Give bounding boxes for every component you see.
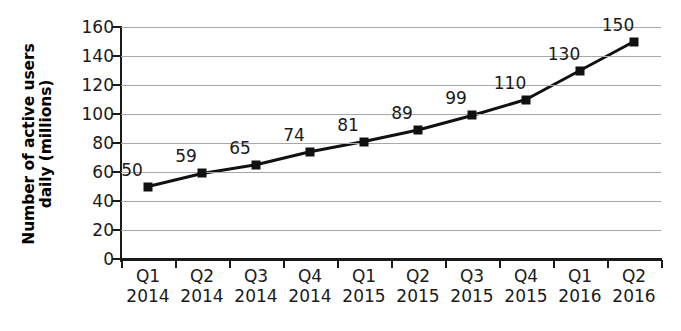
data-point-marker <box>306 147 315 156</box>
data-point-label: 99 <box>445 90 467 107</box>
x-axis-year-label: 2015 <box>342 286 385 306</box>
y-axis-tick-label: 20 <box>68 222 114 239</box>
x-axis-tick-mark <box>445 260 447 268</box>
y-axis-tick-mark <box>112 258 121 260</box>
data-point-marker <box>198 169 207 178</box>
x-axis-category: Q42014 <box>283 266 337 328</box>
x-axis-quarter-label: Q3 <box>460 266 484 286</box>
y-axis-tick-label: 40 <box>68 193 114 210</box>
x-axis-category: Q12014 <box>121 266 175 328</box>
y-axis-tick-label: 0 <box>68 251 114 268</box>
x-axis-category: Q22016 <box>607 266 661 328</box>
x-axis-quarter-label: Q4 <box>298 266 322 286</box>
y-axis-tick-labels: 020406080100120140160 <box>56 0 114 331</box>
x-axis-year-label: 2015 <box>504 286 547 306</box>
y-axis-tick-label: 140 <box>68 48 114 65</box>
x-axis-quarter-label: Q1 <box>352 266 376 286</box>
x-axis-tick-mark <box>337 260 339 268</box>
x-axis-category: Q32014 <box>229 266 283 328</box>
gridline <box>121 143 661 144</box>
y-axis-tick-label: 80 <box>68 135 114 152</box>
line-chart: Number of active users daily (millions) … <box>0 0 681 331</box>
x-axis-tick-mark <box>175 260 177 268</box>
gridline <box>121 201 661 202</box>
data-point-label: 81 <box>337 117 359 134</box>
data-point-label: 59 <box>175 148 197 165</box>
data-point-marker <box>630 37 639 46</box>
x-axis-year-label: 2015 <box>396 286 439 306</box>
data-point-label: 150 <box>602 17 634 34</box>
x-axis-quarter-label: Q2 <box>406 266 430 286</box>
x-axis-category: Q12016 <box>553 266 607 328</box>
data-point-label: 65 <box>229 140 251 157</box>
data-point-label: 50 <box>121 162 143 179</box>
x-axis-tick-mark <box>553 260 555 268</box>
x-axis-year-label: 2014 <box>180 286 223 306</box>
x-axis-quarter-label: Q2 <box>190 266 214 286</box>
data-point-label: 89 <box>391 105 413 122</box>
y-axis-tick-mark <box>112 171 121 173</box>
y-axis-tick-mark <box>112 55 121 57</box>
data-point-label: 130 <box>548 46 580 63</box>
x-axis-category-labels: Q12014Q22014Q32014Q42014Q12015Q22015Q320… <box>121 266 661 328</box>
data-point-marker <box>252 160 261 169</box>
x-axis-year-label: 2015 <box>450 286 493 306</box>
y-axis-tick-mark <box>112 113 121 115</box>
x-axis-tick-mark <box>229 260 231 268</box>
data-point-label: 110 <box>494 75 526 92</box>
x-axis-year-label: 2016 <box>612 286 655 306</box>
y-axis-tick-mark <box>112 84 121 86</box>
x-axis-category: Q22014 <box>175 266 229 328</box>
x-axis-quarter-label: Q3 <box>244 266 268 286</box>
y-axis-title-line-2: daily (millions) <box>38 80 55 209</box>
data-point-marker <box>468 111 477 120</box>
x-axis-quarter-label: Q1 <box>136 266 160 286</box>
x-axis-category: Q42015 <box>499 266 553 328</box>
data-point-label: 74 <box>283 127 305 144</box>
x-axis-tick-mark <box>283 260 285 268</box>
x-axis-year-label: 2014 <box>288 286 331 306</box>
x-axis-year-label: 2014 <box>126 286 169 306</box>
x-axis-year-label: 2016 <box>558 286 601 306</box>
x-axis-tick-mark <box>391 260 393 268</box>
x-axis-category: Q22015 <box>391 266 445 328</box>
y-axis-title: Number of active users daily (millions) <box>15 14 61 274</box>
y-axis-tick-mark <box>112 229 121 231</box>
x-axis-year-label: 2014 <box>234 286 277 306</box>
x-axis-tick-mark <box>121 260 123 268</box>
x-axis-quarter-label: Q4 <box>514 266 538 286</box>
x-axis-tick-mark <box>661 260 663 268</box>
plot-area: 50596574818999110130150 <box>121 27 661 259</box>
y-axis-tick-label: 160 <box>68 19 114 36</box>
y-axis-tick-mark <box>112 142 121 144</box>
x-axis-tick-mark <box>499 260 501 268</box>
gridline <box>121 27 661 28</box>
x-axis-quarter-label: Q2 <box>622 266 646 286</box>
data-point-marker <box>522 95 531 104</box>
x-axis-category: Q32015 <box>445 266 499 328</box>
gridline <box>121 230 661 231</box>
y-axis-tick-label: 100 <box>68 106 114 123</box>
data-point-marker <box>144 182 153 191</box>
y-axis-title-line-1: Number of active users <box>21 43 38 244</box>
x-axis-tick-mark <box>607 260 609 268</box>
y-axis-tick-mark <box>112 26 121 28</box>
data-point-marker <box>414 125 423 134</box>
data-point-marker <box>360 137 369 146</box>
y-axis-tick-label: 60 <box>68 164 114 181</box>
x-axis-category: Q12015 <box>337 266 391 328</box>
y-axis-tick-mark <box>112 200 121 202</box>
y-axis-tick-label: 120 <box>68 77 114 94</box>
x-axis-quarter-label: Q1 <box>568 266 592 286</box>
data-point-marker <box>576 66 585 75</box>
gridline <box>121 85 661 86</box>
